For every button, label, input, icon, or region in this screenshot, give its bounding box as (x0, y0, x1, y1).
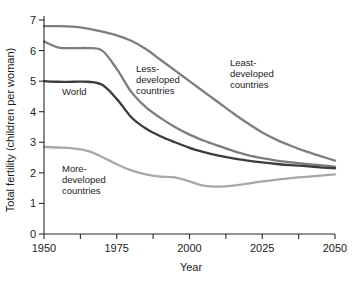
series-line (44, 81, 335, 168)
x-tick-label: 2025 (250, 242, 274, 254)
x-tick-label: 2050 (323, 242, 347, 254)
y-tick-label: 5 (30, 75, 36, 87)
series-annotation-label: World (62, 86, 87, 97)
y-tick-label: 4 (30, 106, 36, 118)
plot-area (44, 26, 335, 187)
x-axis-tick-labels: 19501975200020252050 (32, 242, 347, 254)
y-tick-label: 7 (30, 14, 36, 26)
x-tick-label: 2000 (177, 242, 201, 254)
y-axis-title: Total fertility (children per woman) (4, 48, 16, 212)
y-axis-tick-labels: 01234567 (30, 14, 36, 240)
series-annotation-label: developed (62, 174, 106, 185)
y-tick-label: 6 (30, 45, 36, 57)
y-tick-label: 2 (30, 167, 36, 179)
series-lines (44, 26, 335, 187)
x-tick-label: 1975 (105, 242, 129, 254)
y-axis-ticks (39, 20, 44, 234)
chart-canvas: 01234567 19501975200020252050 Year Total… (0, 0, 359, 284)
series-annotation-label: Less- (136, 63, 159, 74)
fertility-chart-figure: 01234567 19501975200020252050 Year Total… (0, 0, 359, 284)
series-annotation-label: developed (230, 68, 274, 79)
y-tick-label: 1 (30, 197, 36, 209)
series-annotation-label: countries (136, 85, 175, 96)
series-annotation-label: countries (62, 185, 101, 196)
x-tick-label: 1950 (32, 242, 56, 254)
y-tick-label: 3 (30, 136, 36, 148)
series-annotations: Less-developedcountriesLeast-developedco… (62, 57, 274, 196)
x-axis-ticks (44, 234, 335, 239)
y-tick-label: 0 (30, 228, 36, 240)
series-annotation-label: More- (62, 163, 87, 174)
series-annotation-label: developed (136, 74, 180, 85)
series-annotation-label: countries (230, 79, 269, 90)
series-annotation-label: Least- (230, 57, 256, 68)
series-line (44, 26, 335, 161)
x-axis-title: Year (180, 261, 203, 273)
